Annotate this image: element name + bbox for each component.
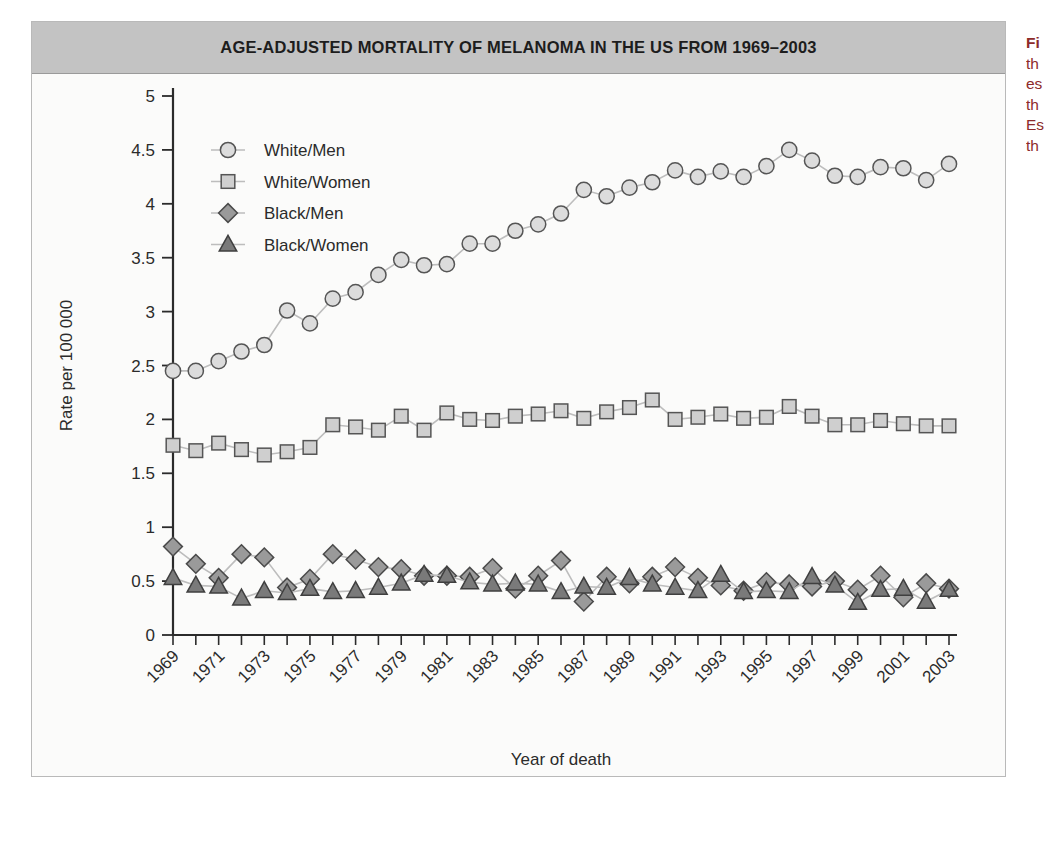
data-point xyxy=(440,406,454,420)
data-point xyxy=(849,593,866,609)
data-point xyxy=(348,285,363,300)
data-point xyxy=(212,436,226,450)
data-point xyxy=(416,258,431,273)
data-point xyxy=(164,569,181,585)
data-point xyxy=(326,418,340,432)
y-tick-label: 4.5 xyxy=(131,141,155,160)
data-point xyxy=(827,168,842,183)
data-point xyxy=(759,158,774,173)
data-point xyxy=(645,175,660,190)
data-point xyxy=(760,410,774,424)
data-point xyxy=(895,579,912,595)
caption-column: FithesthEsth xyxy=(1026,33,1062,156)
caption-line: th xyxy=(1026,136,1062,157)
data-point xyxy=(372,423,386,437)
data-point xyxy=(599,189,614,204)
y-axis-title: Rate per 100 000 xyxy=(57,300,76,431)
data-point xyxy=(302,316,317,331)
series-white-women xyxy=(166,393,956,462)
data-point xyxy=(257,448,271,462)
data-point xyxy=(782,400,796,414)
x-tick-label: 1995 xyxy=(736,646,776,686)
legend-label: White/Men xyxy=(264,141,345,160)
x-tick-label: 1991 xyxy=(645,646,685,686)
caption-line: Fi xyxy=(1026,33,1062,54)
data-point xyxy=(392,574,409,590)
x-tick-label: 1973 xyxy=(234,646,274,686)
data-point xyxy=(394,252,409,267)
data-point xyxy=(280,445,294,459)
data-point xyxy=(714,407,728,421)
x-tick-label: 1983 xyxy=(462,646,502,686)
data-point xyxy=(851,418,865,432)
y-tick-label: 0.5 xyxy=(131,572,155,591)
data-point xyxy=(507,574,524,590)
data-point xyxy=(600,405,614,419)
data-point xyxy=(736,169,751,184)
y-tick-label: 3 xyxy=(146,303,155,322)
data-point xyxy=(666,558,685,577)
data-point xyxy=(394,409,408,423)
legend-marker-circle xyxy=(220,142,235,157)
data-point xyxy=(554,404,568,418)
data-point xyxy=(186,554,205,573)
data-point xyxy=(552,551,571,570)
data-point xyxy=(257,337,272,352)
data-point xyxy=(712,565,729,581)
data-point xyxy=(873,160,888,175)
data-point xyxy=(531,407,545,421)
data-point xyxy=(874,414,888,428)
data-point xyxy=(577,412,591,426)
data-point xyxy=(896,161,911,176)
x-tick-label: 1969 xyxy=(143,646,183,686)
data-point xyxy=(917,574,936,593)
y-tick-label: 0 xyxy=(146,626,155,645)
chart-legend: White/MenWhite/WomenBlack/MenBlack/Women xyxy=(211,141,370,255)
data-point xyxy=(188,363,203,378)
y-tick-label: 2.5 xyxy=(131,357,155,376)
data-point xyxy=(462,236,477,251)
data-point xyxy=(850,169,865,184)
data-point xyxy=(417,423,431,437)
legend-marker-triangle xyxy=(219,235,236,251)
data-point xyxy=(576,182,591,197)
data-point xyxy=(691,410,705,424)
caption-line: Es xyxy=(1026,115,1062,136)
data-point xyxy=(622,180,637,195)
data-point xyxy=(486,414,500,428)
data-point xyxy=(804,153,819,168)
data-point xyxy=(463,413,477,427)
data-point xyxy=(690,169,705,184)
y-tick-label: 3.5 xyxy=(131,249,155,268)
data-point xyxy=(508,223,523,238)
caption-line: es xyxy=(1026,74,1062,95)
x-tick-label: 2003 xyxy=(919,646,959,686)
data-point xyxy=(439,257,454,272)
data-point xyxy=(234,344,249,359)
y-tick-label: 1 xyxy=(146,518,155,537)
legend-marker-diamond xyxy=(219,204,238,223)
legend-label: White/Women xyxy=(264,173,370,192)
legend-label: Black/Women xyxy=(264,236,369,255)
data-point xyxy=(189,444,203,458)
x-tick-label: 1989 xyxy=(599,646,639,686)
data-point xyxy=(623,401,637,415)
caption-line: th xyxy=(1026,95,1062,116)
legend-label: Black/Men xyxy=(264,204,343,223)
data-point xyxy=(553,206,568,221)
data-point xyxy=(897,417,911,431)
data-point xyxy=(325,291,340,306)
x-tick-label: 1999 xyxy=(827,646,867,686)
x-tick-label: 1997 xyxy=(782,646,822,686)
chart-title: AGE-ADJUSTED MORTALITY OF MELANOMA IN TH… xyxy=(220,38,816,57)
data-point xyxy=(371,267,386,282)
chart-title-band: AGE-ADJUSTED MORTALITY OF MELANOMA IN TH… xyxy=(32,22,1005,74)
data-point xyxy=(164,537,183,556)
data-point xyxy=(280,303,295,318)
data-point xyxy=(919,419,933,433)
screenshot-page: AGE-ADJUSTED MORTALITY OF MELANOMA IN TH… xyxy=(0,0,1062,852)
data-point xyxy=(621,569,638,585)
data-point xyxy=(805,409,819,423)
y-tick-label: 1.5 xyxy=(131,464,155,483)
data-point xyxy=(942,419,956,433)
